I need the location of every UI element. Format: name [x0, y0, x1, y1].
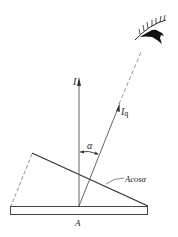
angle-arrow-left-icon: [80, 150, 84, 153]
dashed-projection-line: [11, 154, 32, 206]
label-projected-area: Acosα: [124, 174, 147, 184]
diagram-canvas: I Iq α Acosα A: [0, 0, 178, 237]
normal-arrowhead-icon: [77, 77, 81, 86]
base-plate: [11, 207, 148, 215]
label-intensity-normal: I: [72, 76, 77, 87]
label-area: A: [74, 218, 81, 228]
label-angle-alpha: α: [87, 140, 93, 151]
viewing-line-dashed: [119, 52, 141, 104]
label-intensity-angle: Iq: [120, 106, 128, 118]
label-intensity-angle-sub: q: [124, 109, 128, 118]
viewing-line-solid: [79, 108, 118, 206]
projected-area-leader: [106, 178, 124, 184]
eye-icon: [135, 15, 166, 44]
viewing-arrowhead-icon: [116, 103, 120, 112]
